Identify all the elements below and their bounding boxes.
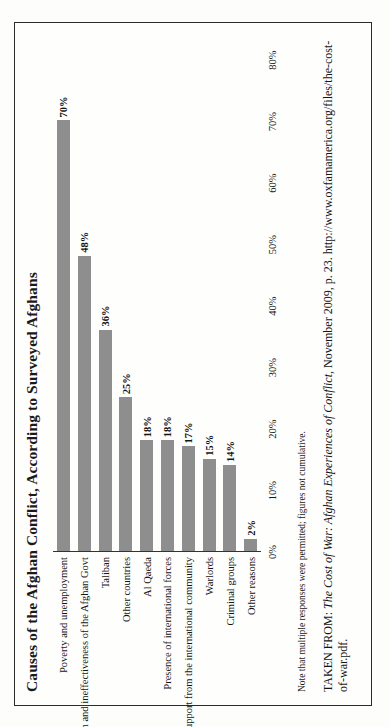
value-axis-ticks: 0%10%20%30%40%50%60%70%80% (265, 60, 285, 552)
bar-row: 36%Taliban (99, 59, 112, 551)
axis-tick-label: 60% (267, 173, 278, 192)
plot-area: 70%Poverty and unemployment48%Corruption… (53, 60, 261, 552)
bar-row: 17%Lack of support from the internationa… (182, 59, 195, 551)
axis-tick-label: 50% (267, 235, 278, 254)
bar-row: 14%Criminal groups (223, 59, 236, 551)
bar-row: 2%Other reasons (244, 59, 257, 551)
axis-tick-label: 20% (267, 419, 278, 438)
source-prefix: TAKEN FROM: (321, 609, 335, 692)
category-label: Al Qaeda (141, 557, 152, 597)
bar-row: 15%Warlords (203, 59, 216, 551)
axis-tick-label: 40% (267, 296, 278, 315)
bar (57, 121, 70, 552)
category-label: Presence of international forces (162, 557, 173, 690)
bar (140, 440, 153, 551)
category-label: Warlords (204, 557, 215, 595)
source-title: The Cost of War: Afghan Experiences of C… (321, 374, 335, 609)
rotated-content-stage: Causes of the Afghan Conflict, According… (17, 26, 369, 702)
bar-row: 18%Al Qaeda (140, 59, 153, 551)
bar (244, 539, 257, 551)
category-label: Taliban (100, 557, 111, 588)
bar (78, 256, 91, 551)
bar-value-label: 48% (79, 232, 90, 256)
bar-value-label: 18% (162, 416, 173, 440)
bar (161, 440, 174, 551)
bar (203, 459, 216, 551)
bar-row: 25%Other countries (119, 59, 132, 551)
bar-value-label: 25% (120, 373, 131, 397)
bar-value-label: 36% (100, 306, 111, 330)
page-canvas: Causes of the Afghan Conflict, According… (0, 0, 389, 727)
bar-value-label: 15% (204, 435, 215, 459)
category-label: Criminal groups (224, 557, 235, 626)
chart-footnote: Note that multiple responses were permit… (297, 431, 307, 692)
category-label: Other reasons (245, 557, 256, 615)
axis-tick-label: 0% (267, 545, 278, 559)
category-label: Other countries (120, 557, 131, 622)
category-label: Poverty and unemployment (58, 557, 69, 673)
axis-tick-label: 70% (267, 112, 278, 131)
bar (182, 446, 195, 551)
axis-tick-label: 30% (267, 358, 278, 377)
bar-row: 70%Poverty and unemployment (57, 59, 70, 551)
bar-value-label: 70% (58, 97, 69, 121)
category-label: Lack of support from the international c… (183, 557, 194, 727)
figure-sheet: Causes of the Afghan Conflict, According… (17, 26, 369, 702)
bar-row: 48%Corruption and ineffectiveness of the… (78, 59, 91, 551)
chart-title: Causes of the Afghan Conflict, According… (23, 272, 41, 692)
bar-value-label: 18% (141, 416, 152, 440)
bar (223, 465, 236, 551)
category-label: Corruption and ineffectiveness of the Af… (79, 557, 90, 727)
bar-value-label: 17% (183, 422, 194, 446)
figure-frame: Causes of the Afghan Conflict, According… (14, 22, 372, 706)
bar-row: 18%Presence of international forces (161, 59, 174, 551)
bar-value-label: 14% (224, 441, 235, 465)
axis-tick-label: 10% (267, 481, 278, 500)
source-citation: TAKEN FROM: The Cost of War: Afghan Expe… (321, 32, 352, 692)
bar (119, 397, 132, 551)
axis-tick-label: 80% (267, 50, 278, 69)
bar (99, 330, 112, 551)
bar-value-label: 2% (245, 520, 256, 539)
